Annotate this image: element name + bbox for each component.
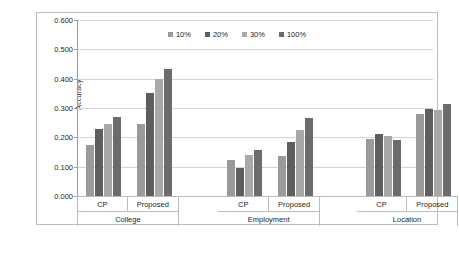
bar-series-container bbox=[78, 20, 433, 196]
y-axis-tick-label: 0.600 bbox=[39, 16, 73, 25]
bar-group bbox=[219, 20, 270, 196]
x-axis-label-table: CPProposedCPProposedCPProposed CollegeEm… bbox=[77, 196, 433, 226]
bar bbox=[164, 69, 172, 196]
bar-group bbox=[129, 20, 180, 196]
bar bbox=[104, 124, 112, 196]
bar bbox=[137, 124, 145, 196]
bar bbox=[227, 160, 235, 196]
x-axis-spacer bbox=[320, 211, 357, 226]
plot-area bbox=[77, 20, 433, 196]
x-axis-method-label: CP bbox=[357, 196, 408, 211]
x-axis-row-datasets: CollegeEmploymentLocation bbox=[77, 211, 433, 226]
x-axis-dataset-label: College bbox=[77, 211, 179, 226]
bar bbox=[287, 142, 295, 196]
x-axis-method-label: Proposed bbox=[128, 196, 179, 211]
bar bbox=[393, 140, 401, 196]
x-axis-row-methods: CPProposedCPProposedCPProposed bbox=[77, 196, 433, 211]
bar bbox=[245, 155, 253, 196]
bar bbox=[113, 117, 121, 196]
bar bbox=[375, 134, 383, 196]
bar bbox=[95, 129, 103, 196]
bar bbox=[236, 168, 244, 196]
bar bbox=[425, 109, 433, 196]
x-axis-method-label: Proposed bbox=[269, 196, 320, 211]
bar-group bbox=[409, 20, 459, 196]
chart-container: Accuracy 0.0000.1000.2000.3000.4000.5000… bbox=[36, 12, 438, 225]
bar-group bbox=[358, 20, 409, 196]
x-axis-spacer bbox=[179, 211, 219, 226]
bar bbox=[416, 114, 424, 196]
x-axis-method-label: CP bbox=[218, 196, 269, 211]
y-axis-tick-label: 0.300 bbox=[39, 104, 73, 113]
bar bbox=[434, 110, 442, 196]
bar bbox=[443, 104, 451, 196]
x-axis-spacer bbox=[179, 196, 219, 211]
x-axis-dataset-label: Employment bbox=[218, 211, 320, 226]
bar-group bbox=[78, 20, 129, 196]
y-axis-tick-label: 0.200 bbox=[39, 133, 73, 142]
bar bbox=[384, 136, 392, 196]
bar-group bbox=[270, 20, 321, 196]
bar bbox=[296, 130, 304, 196]
x-axis-dataset-label: Location bbox=[357, 211, 459, 226]
bar bbox=[305, 118, 313, 196]
y-axis-tick-label: 0.500 bbox=[39, 45, 73, 54]
x-axis-spacer bbox=[320, 196, 357, 211]
y-axis-tick-label: 0.000 bbox=[39, 192, 73, 201]
bar bbox=[254, 150, 262, 196]
bar bbox=[366, 139, 374, 196]
x-axis-method-label: CP bbox=[77, 196, 128, 211]
y-axis-tick-label: 0.100 bbox=[39, 162, 73, 171]
bar bbox=[146, 93, 154, 196]
bar bbox=[86, 145, 94, 196]
y-axis-tick-label: 0.400 bbox=[39, 74, 73, 83]
x-axis-method-label: Proposed bbox=[407, 196, 458, 211]
bar bbox=[155, 79, 163, 196]
bar bbox=[278, 156, 286, 196]
y-axis-tick-labels: 0.0000.1000.2000.3000.4000.5000.600 bbox=[37, 13, 77, 226]
